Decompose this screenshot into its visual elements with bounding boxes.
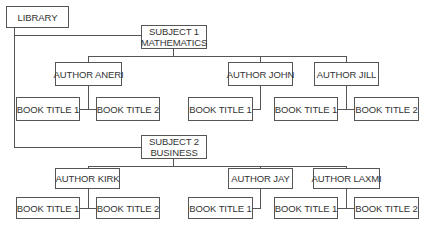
connector-line [14, 28, 15, 148]
subject-node-mathematics: SUBJECT 1 MATHEMATICS [141, 25, 207, 49]
author-node-kirk: AUTHOR KIRK [55, 168, 120, 189]
subject-node-business: SUBJECT 2 BUSINESS [141, 135, 207, 159]
node-label: MATHEMATICS [141, 37, 208, 48]
book-node: BOOK TITLE 1 [16, 197, 80, 219]
connector-line [80, 208, 96, 209]
node-label: BOOK TITLE 1 [17, 203, 80, 214]
author-node-john: AUTHOR JOHN [228, 62, 293, 86]
connector-line [14, 35, 141, 36]
connector-line [338, 109, 354, 110]
node-label: AUTHOR ANERI [53, 69, 123, 80]
library-hierarchy-diagram: LIBRARY SUBJECT 1 MATHEMATICS AUTHOR ANE… [0, 0, 427, 226]
book-node: BOOK TITLE 1 [274, 97, 338, 121]
node-label: BOOK TITLE 2 [355, 104, 418, 115]
book-node: BOOK TITLE 2 [354, 197, 419, 219]
node-label: LIBRARY [18, 12, 58, 23]
book-node: BOOK TITLE 1 [188, 97, 253, 121]
node-label: AUTHOR KIRK [56, 173, 120, 184]
node-label: BOOK TITLE 2 [97, 104, 160, 115]
connector-line [260, 86, 261, 109]
node-label: BOOK TITLE 1 [275, 203, 338, 214]
node-label: AUTHOR JOHN [227, 69, 295, 80]
node-label: BOOK TITLE 2 [355, 203, 418, 214]
connector-line [253, 208, 261, 209]
node-label: BOOK TITLE 1 [189, 203, 252, 214]
book-node: BOOK TITLE 1 [16, 97, 80, 121]
connector-line [14, 147, 141, 148]
node-label: AUTHOR JAY [231, 173, 289, 184]
book-node: BOOK TITLE 2 [354, 97, 419, 121]
node-label: BUSINESS [150, 147, 197, 158]
node-label: BOOK TITLE 1 [17, 104, 80, 115]
connector-line [253, 109, 261, 110]
book-node: BOOK TITLE 1 [274, 197, 338, 219]
connector-line [346, 189, 347, 208]
book-node: BOOK TITLE 2 [96, 97, 160, 121]
book-node: BOOK TITLE 2 [96, 197, 160, 219]
connector-line [80, 109, 96, 110]
node-label: SUBJECT 1 [149, 26, 199, 37]
connector-line [88, 86, 89, 109]
author-node-laxmi: AUTHOR LAXMI [313, 168, 380, 189]
author-node-aneri: AUTHOR ANERI [55, 62, 122, 86]
node-label: AUTHOR JILL [317, 69, 377, 80]
node-label: BOOK TITLE 1 [189, 104, 252, 115]
author-node-jill: AUTHOR JILL [314, 62, 379, 86]
connector-line [260, 189, 261, 208]
book-node: BOOK TITLE 1 [188, 197, 253, 219]
node-label: BOOK TITLE 2 [97, 203, 160, 214]
connector-line [88, 166, 347, 167]
connector-line [346, 86, 347, 109]
root-node-library: LIBRARY [6, 6, 69, 28]
connector-line [338, 208, 354, 209]
node-label: SUBJECT 2 [149, 136, 199, 147]
connector-line [88, 189, 89, 208]
node-label: BOOK TITLE 1 [275, 104, 338, 115]
author-node-jay: AUTHOR JAY [228, 168, 293, 189]
node-label: AUTHOR LAXMI [311, 173, 381, 184]
connector-line [88, 56, 347, 57]
